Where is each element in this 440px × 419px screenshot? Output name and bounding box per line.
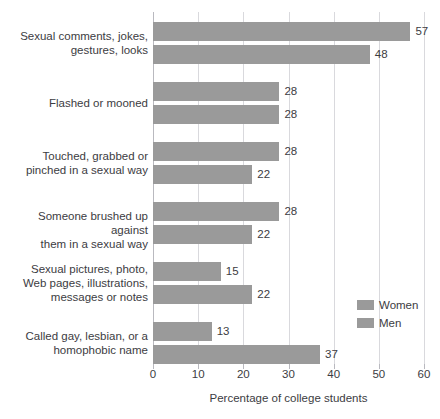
bar-value-label: 15 <box>226 262 239 281</box>
y-axis-line <box>153 12 154 364</box>
legend-label: Men <box>379 317 401 329</box>
bar-value-label: 28 <box>284 82 297 101</box>
category-label: Called gay, lesbian, or a homophobic nam… <box>0 329 148 357</box>
chart-legend: WomenMen <box>357 297 418 333</box>
gridline-60 <box>424 12 425 364</box>
bar-value-label: 28 <box>284 142 297 161</box>
legend-item: Women <box>357 297 418 312</box>
x-tick-label: 30 <box>274 368 304 380</box>
category-label: Flashed or mooned <box>0 96 148 110</box>
category-label: Someone brushed up against them in a sex… <box>0 209 148 251</box>
gridline-30 <box>289 12 290 364</box>
bar-value-label: 57 <box>415 22 428 41</box>
x-tick-label: 10 <box>183 368 213 380</box>
category-label: Sexual pictures, photo, Web pages, illus… <box>0 262 148 304</box>
bar-value-label: 48 <box>375 45 388 64</box>
x-axis-title: Percentage of college students <box>153 392 424 404</box>
bar-value-label: 28 <box>284 105 297 124</box>
x-tick-label: 40 <box>319 368 349 380</box>
bar <box>153 22 410 41</box>
bar <box>153 345 320 364</box>
legend-label: Women <box>379 299 418 311</box>
legend-item: Men <box>357 315 418 330</box>
bar <box>153 82 279 101</box>
x-tick-label: 0 <box>138 368 168 380</box>
bar <box>153 165 252 184</box>
legend-swatch-icon <box>357 300 374 310</box>
bar-chart: Sexual comments, jokes, gestures, looksF… <box>0 0 440 419</box>
x-tick-label: 50 <box>364 368 394 380</box>
bar <box>153 285 252 304</box>
legend-swatch-icon <box>357 318 374 328</box>
x-tick-label: 20 <box>228 368 258 380</box>
x-tick-label: 60 <box>409 368 439 380</box>
category-label: Sexual comments, jokes, gestures, looks <box>0 29 148 57</box>
bar <box>153 142 279 161</box>
gridline-20 <box>243 12 244 364</box>
bar-value-label: 22 <box>257 225 270 244</box>
bar <box>153 262 221 281</box>
gridline-40 <box>334 12 335 364</box>
bar-value-label: 22 <box>257 165 270 184</box>
category-label: Touched, grabbed or pinched in a sexual … <box>0 149 148 177</box>
bar <box>153 202 279 221</box>
gridline-10 <box>198 12 199 364</box>
bar-value-label: 13 <box>217 322 230 341</box>
bar <box>153 45 370 64</box>
bar <box>153 225 252 244</box>
bar-value-label: 28 <box>284 202 297 221</box>
bar <box>153 322 212 341</box>
category-label-layer: Sexual comments, jokes, gestures, looksF… <box>0 0 148 419</box>
bar-value-label: 37 <box>325 345 338 364</box>
bar-value-label: 22 <box>257 285 270 304</box>
bar <box>153 105 279 124</box>
